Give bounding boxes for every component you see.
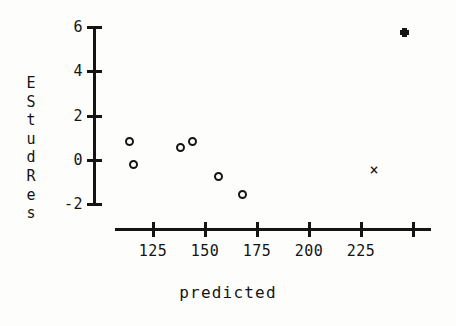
y-axis-tick: [87, 159, 102, 162]
data-point-circle: [214, 172, 223, 181]
x-axis-line: [115, 228, 431, 231]
y-axis-tick-label: 4: [37, 64, 83, 79]
x-axis-tick: [308, 222, 311, 237]
y-axis-title-char: R: [22, 167, 40, 186]
x-axis-tick-label: 225: [331, 244, 391, 259]
x-axis-tick: [412, 222, 415, 237]
data-point-circle: [176, 143, 185, 152]
data-point-x: ×: [369, 166, 378, 175]
y-axis-tick: [87, 26, 102, 29]
scatter-plot-figure: E S t u d R e s -20246125150175200225 × …: [0, 0, 456, 326]
x-axis-tick-label: 150: [175, 244, 235, 259]
y-axis-tick-label: 6: [37, 20, 83, 35]
y-axis-title-char: u: [22, 130, 40, 149]
y-axis-tick: [87, 70, 102, 73]
data-point-circle: [125, 137, 134, 146]
y-axis-tick: [87, 203, 102, 206]
y-axis-tick-label: 0: [37, 153, 83, 168]
data-point-circle: [129, 160, 138, 169]
data-point-dot: [402, 30, 407, 35]
y-axis-tick-label: -2: [37, 197, 83, 212]
data-point-circle: [238, 190, 247, 199]
x-axis-tick-label: 125: [123, 244, 183, 259]
x-axis-title: predicted: [0, 283, 456, 302]
x-axis-tick: [204, 222, 207, 237]
x-axis-tick-label: 175: [227, 244, 287, 259]
data-point-circle: [188, 137, 197, 146]
y-axis-tick-label: 2: [37, 109, 83, 124]
x-axis-tick: [152, 222, 155, 237]
x-axis-tick: [360, 222, 363, 237]
x-axis-tick: [256, 222, 259, 237]
y-axis-tick: [87, 115, 102, 118]
x-axis-tick-label: 200: [279, 244, 339, 259]
